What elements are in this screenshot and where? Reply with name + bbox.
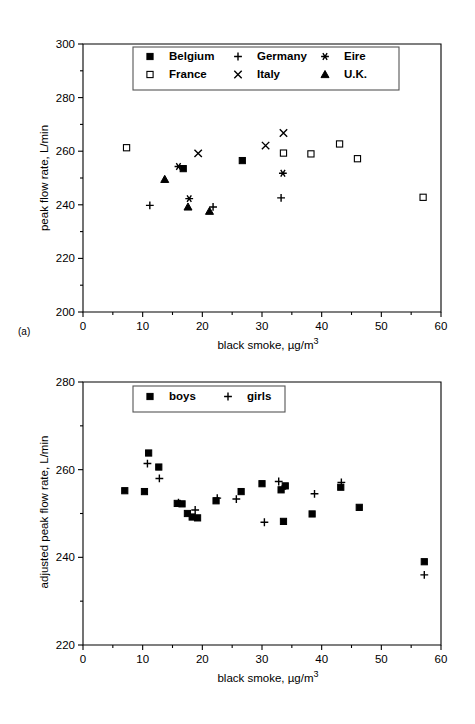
series-eire: [175, 163, 287, 202]
x-tick-label: 40: [315, 320, 328, 332]
data-point: [282, 483, 288, 489]
data-point: [194, 515, 200, 521]
y-tick-label: 260: [56, 464, 75, 476]
data-point: [420, 571, 428, 579]
x-tick-label: 30: [256, 320, 269, 332]
panel-b-scatter-chart: 2202402602800102030405060black smoke, µg…: [0, 362, 475, 724]
data-point: [141, 488, 147, 494]
x-tick-label: 20: [196, 320, 209, 332]
data-point: [123, 145, 129, 151]
data-point: [279, 170, 287, 177]
data-point: [309, 511, 315, 517]
data-point: [275, 478, 283, 486]
legend-label-italy: Italy: [257, 68, 281, 80]
x-tick-label: 60: [435, 653, 448, 665]
panel-a-scatter-chart: 2002202402602803000102030405060black smo…: [0, 0, 475, 362]
x-axis-ticks: 0102030405060: [80, 312, 448, 332]
data-point: [280, 518, 286, 524]
data-point: [205, 207, 213, 214]
x-tick-label: 40: [315, 653, 328, 665]
data-point: [194, 150, 201, 157]
y-tick-label: 200: [56, 306, 75, 318]
x-tick-label: 20: [196, 653, 209, 665]
x-axis-title: black smoke, µg/m3: [217, 336, 318, 351]
data-point: [420, 194, 426, 200]
data-point: [280, 129, 287, 136]
y-tick-label: 280: [56, 376, 75, 388]
legend-label-eire: Eire: [344, 50, 366, 62]
x-tick-label: 60: [435, 320, 448, 332]
y-axis-ticks: 220240260280: [56, 376, 83, 651]
panel-a-label: (a): [18, 326, 30, 337]
plot-frame: [83, 382, 441, 645]
y-axis-ticks: 200220240260280300: [56, 38, 83, 318]
y-tick-label: 220: [56, 639, 75, 651]
x-tick-label: 50: [375, 320, 388, 332]
series-france: [123, 141, 426, 201]
x-axis-title: black smoke, µg/m3: [217, 669, 318, 684]
series-italy: [194, 129, 287, 157]
y-tick-label: 240: [56, 199, 75, 211]
series-boys: [122, 450, 428, 565]
panel-a-plot-area: 2002202402602803000102030405060black smo…: [0, 0, 475, 362]
data-point: [146, 450, 152, 456]
x-tick-label: 10: [136, 320, 149, 332]
legend-marker-belgium: [147, 53, 153, 59]
legend-marker-france: [147, 71, 153, 77]
chart-legend: boysgirls: [133, 386, 285, 412]
data-point: [122, 488, 128, 494]
data-point: [179, 501, 185, 507]
data-point: [260, 518, 268, 526]
legend-marker-boys: [147, 393, 153, 399]
data-point: [354, 156, 360, 162]
legend-label-boys: boys: [169, 390, 196, 402]
legend-label-germany: Germany: [257, 50, 307, 62]
series-u-k: [161, 175, 214, 214]
legend-label-u-k: U.K.: [344, 68, 367, 80]
y-tick-label: 300: [56, 38, 75, 50]
data-point: [185, 195, 193, 202]
data-point: [421, 559, 427, 565]
data-point: [191, 506, 199, 514]
data-point: [311, 490, 319, 498]
legend-label-france: France: [169, 68, 207, 80]
x-tick-label: 30: [256, 653, 269, 665]
series-germany: [146, 194, 285, 211]
x-axis-ticks: 0102030405060: [80, 645, 448, 665]
data-point: [155, 475, 163, 483]
x-tick-label: 0: [80, 320, 86, 332]
data-point: [262, 142, 269, 149]
legend-label-belgium: Belgium: [169, 50, 214, 62]
y-axis-title: peak flow rate, L/min: [38, 125, 50, 231]
y-tick-label: 240: [56, 551, 75, 563]
x-tick-label: 50: [375, 653, 388, 665]
y-tick-label: 280: [56, 92, 75, 104]
data-point: [156, 464, 162, 470]
data-point: [238, 488, 244, 494]
data-point: [308, 151, 314, 157]
y-tick-label: 220: [56, 252, 75, 264]
data-point: [259, 481, 265, 487]
data-point: [161, 175, 169, 182]
data-point: [336, 141, 342, 147]
data-point: [146, 201, 154, 209]
data-point: [184, 203, 192, 210]
y-tick-label: 260: [56, 145, 75, 157]
y-axis-title: adjusted peak flow rate, L/min: [38, 436, 50, 589]
data-point: [277, 194, 285, 202]
panel-b-plot-area: 2202402602800102030405060black smoke, µg…: [0, 362, 475, 724]
legend-label-girls: girls: [247, 390, 271, 402]
data-point: [280, 150, 286, 156]
series-belgium: [180, 157, 245, 171]
data-point: [239, 157, 245, 163]
data-point: [232, 495, 240, 503]
chart-legend: BelgiumFranceGermanyItalyEireU.K.: [133, 47, 399, 90]
x-tick-label: 10: [136, 653, 149, 665]
data-point: [144, 460, 152, 468]
data-point: [356, 504, 362, 510]
x-tick-label: 0: [80, 653, 86, 665]
